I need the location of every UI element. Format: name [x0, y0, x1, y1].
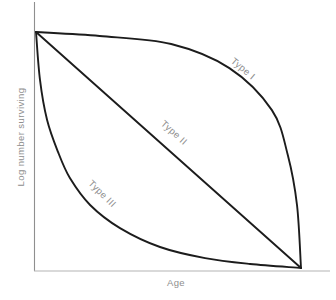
type2-curve-label: Type II: [159, 118, 190, 147]
survivorship-curve-figure: Type I Type II Type III Log number survi…: [0, 0, 336, 300]
x-axis-label: Age: [167, 277, 185, 288]
plot-canvas: Type I Type II Type III Log number survi…: [0, 0, 336, 300]
type3-curve-label: Type III: [86, 178, 118, 210]
y-axis-label: Log number surviving: [15, 88, 26, 187]
type2-curve: [36, 32, 301, 268]
